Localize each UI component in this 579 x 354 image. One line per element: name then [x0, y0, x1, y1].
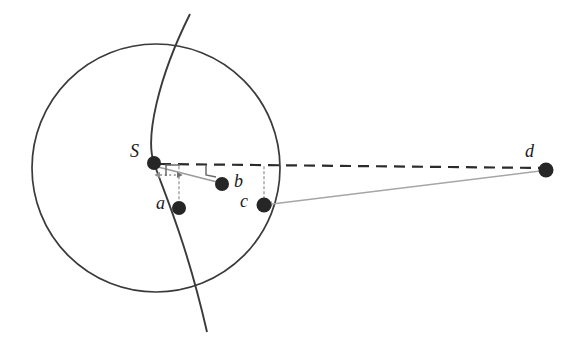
gray-line-c-to-d: [272, 171, 540, 204]
dashed-horizontal-line: [160, 164, 542, 168]
point-S: [147, 156, 161, 170]
point-a: [172, 201, 186, 215]
point-b: [215, 177, 229, 191]
point-label-b: b: [234, 172, 243, 190]
gray-line-S-to-b: [158, 167, 221, 183]
point-label-d: d: [525, 142, 534, 160]
point-d: [539, 163, 554, 178]
point-label-a: a: [156, 194, 165, 212]
right-angle-marker-at-b-line: [206, 165, 216, 177]
figure-canvas: S a b c d: [0, 0, 579, 354]
point-label-c: c: [240, 192, 248, 210]
point-c: [257, 198, 272, 213]
point-label-S: S: [130, 142, 139, 160]
diagram-svg: [0, 0, 579, 354]
